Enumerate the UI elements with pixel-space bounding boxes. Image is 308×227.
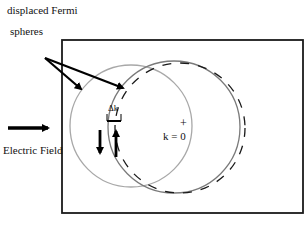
delta-k-label: Δk (108, 104, 118, 113)
fermi-sphere-left (70, 65, 192, 187)
caption-arrow-right (45, 58, 123, 88)
electric-field-label: Electric Field (3, 145, 63, 156)
caption-line-2: spheres (10, 26, 43, 37)
fermi-sphere-diagram (0, 0, 308, 227)
origin-label: k = 0 (163, 131, 186, 142)
fermi-sphere-right (108, 61, 240, 193)
origin-marker: + (180, 117, 187, 129)
caption-line-1: displaced Fermi (7, 5, 78, 16)
caption-arrow-left (45, 58, 81, 89)
